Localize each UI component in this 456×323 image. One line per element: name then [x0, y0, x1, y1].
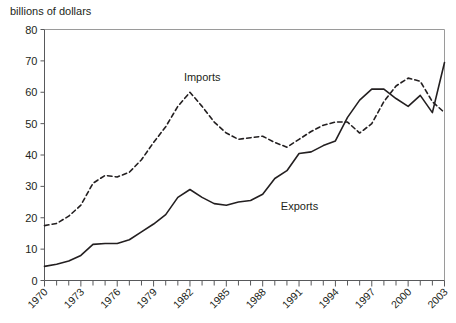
x-tick-label: 1982 — [170, 285, 195, 310]
y-tick-label: 10 — [25, 243, 37, 255]
y-tick-label: 70 — [25, 55, 37, 67]
y-tick-label: 20 — [25, 212, 37, 224]
chart-container: billions of dollars 01020304050607080 19… — [0, 0, 456, 323]
series-line-imports — [45, 78, 445, 225]
x-tick-label: 1973 — [61, 285, 86, 310]
y-tick-label: 40 — [25, 149, 37, 161]
x-tick-label: 1979 — [134, 285, 159, 310]
y-tick-label: 50 — [25, 118, 37, 130]
series-label-imports: Imports — [184, 71, 221, 83]
x-tick-label: 2003 — [425, 285, 450, 310]
y-tick-label: 30 — [25, 180, 37, 192]
x-tick-label: 1997 — [352, 285, 377, 310]
series-label-exports: Exports — [281, 200, 319, 212]
y-tick-label: 80 — [25, 24, 37, 36]
x-axis-ticks: 1970197319761979198219851988199119941997… — [25, 281, 450, 311]
y-axis-ticks: 01020304050607080 — [25, 24, 44, 287]
chart-plot-area: 01020304050607080 1970197319761979198219… — [0, 0, 456, 323]
x-tick-label: 1970 — [25, 285, 50, 310]
data-series-group — [45, 62, 445, 266]
x-tick-label: 1991 — [279, 285, 304, 310]
x-tick-label: 1976 — [98, 285, 123, 310]
series-line-exports — [45, 62, 445, 266]
x-tick-label: 2000 — [389, 285, 414, 310]
x-tick-label: 1994 — [316, 285, 341, 310]
x-tick-label: 1988 — [243, 285, 268, 310]
series-annotations: ImportsExports — [184, 71, 319, 212]
y-tick-label: 60 — [25, 86, 37, 98]
y-tick-label: 0 — [31, 275, 37, 287]
x-tick-label: 1985 — [207, 285, 232, 310]
